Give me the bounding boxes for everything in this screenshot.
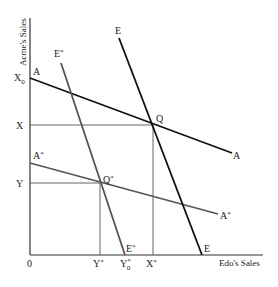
y-tick-X: X (16, 120, 24, 131)
y-tick-Y: Y (16, 178, 23, 189)
x-axis-title: Edo's Sales (219, 258, 260, 268)
label-E-end: E (204, 243, 210, 254)
label-A-star-start: A* (33, 150, 44, 161)
point-Q-label: Q (156, 113, 164, 124)
x-tick-Ystar: Y* (93, 258, 104, 269)
label-A-star-end: A* (220, 210, 231, 221)
reaction-function-diagram: Acme's Sales Edo's Sales 0 X0 X Y Y* Y*0… (0, 0, 278, 287)
line-A (30, 78, 232, 153)
line-A-star (30, 163, 218, 214)
label-A-end: A (233, 150, 241, 161)
point-Q-star-label: Q* (103, 174, 114, 185)
y-axis-title: Acme's Sales (18, 18, 28, 66)
label-A-start: A (33, 66, 41, 77)
line-E-star (61, 63, 125, 255)
line-E (119, 38, 202, 255)
y-tick-X0: X0 (14, 72, 25, 86)
label-E-star-end: E* (126, 243, 136, 254)
label-E-star-start: E* (54, 48, 64, 59)
origin-label: 0 (27, 258, 32, 269)
label-E-start: E (115, 25, 121, 36)
x-tick-Xstar: X* (146, 258, 157, 269)
x-tick-Y0star: Y*0 (120, 257, 131, 272)
